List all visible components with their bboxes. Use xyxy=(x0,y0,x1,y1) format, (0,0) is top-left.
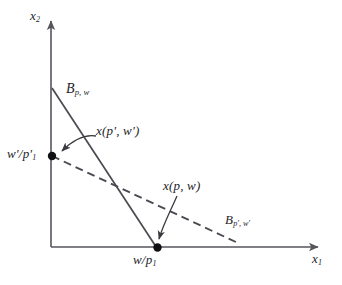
y-intercept-label-sub: 1 xyxy=(32,153,36,162)
budget-line-solid-label-base: B xyxy=(66,81,75,96)
figure-canvas xyxy=(0,0,342,285)
demand-point-x-pw xyxy=(153,243,161,251)
demand-point-x-ppwp xyxy=(48,152,56,160)
y-axis-label-sub: 2 xyxy=(36,15,40,24)
x-intercept-label-base: w/p xyxy=(133,252,152,267)
budget-line-solid-label: Bp, w xyxy=(66,82,89,97)
x-intercept-label: w/p1 xyxy=(133,253,156,268)
budget-set-figure: x2 x1 Bp, w Bp', w' x(p', w') x(p, w) w'… xyxy=(0,0,342,285)
y-intercept-label-base: w'/p' xyxy=(7,146,32,161)
pointer-arrow-x-pw xyxy=(159,196,177,239)
budget-line-dashed-label: Bp', w' xyxy=(225,213,250,228)
demand-label-x-pw: x(p, w) xyxy=(163,179,201,192)
budget-line-dashed-label-base: B xyxy=(225,212,233,227)
x-axis-label: x1 xyxy=(312,252,322,267)
budget-line-solid xyxy=(52,88,158,249)
budget-line-solid-label-sub: p, w xyxy=(75,87,89,97)
y-intercept-label: w'/p'1 xyxy=(7,147,36,162)
x-axis-label-sub: 1 xyxy=(318,258,322,267)
budget-line-dashed-label-sub: p', w' xyxy=(233,219,250,228)
y-axis-label: x2 xyxy=(30,9,40,24)
x-intercept-label-sub: 1 xyxy=(152,259,156,268)
demand-label-x-ppwp: x(p', w') xyxy=(96,124,139,137)
